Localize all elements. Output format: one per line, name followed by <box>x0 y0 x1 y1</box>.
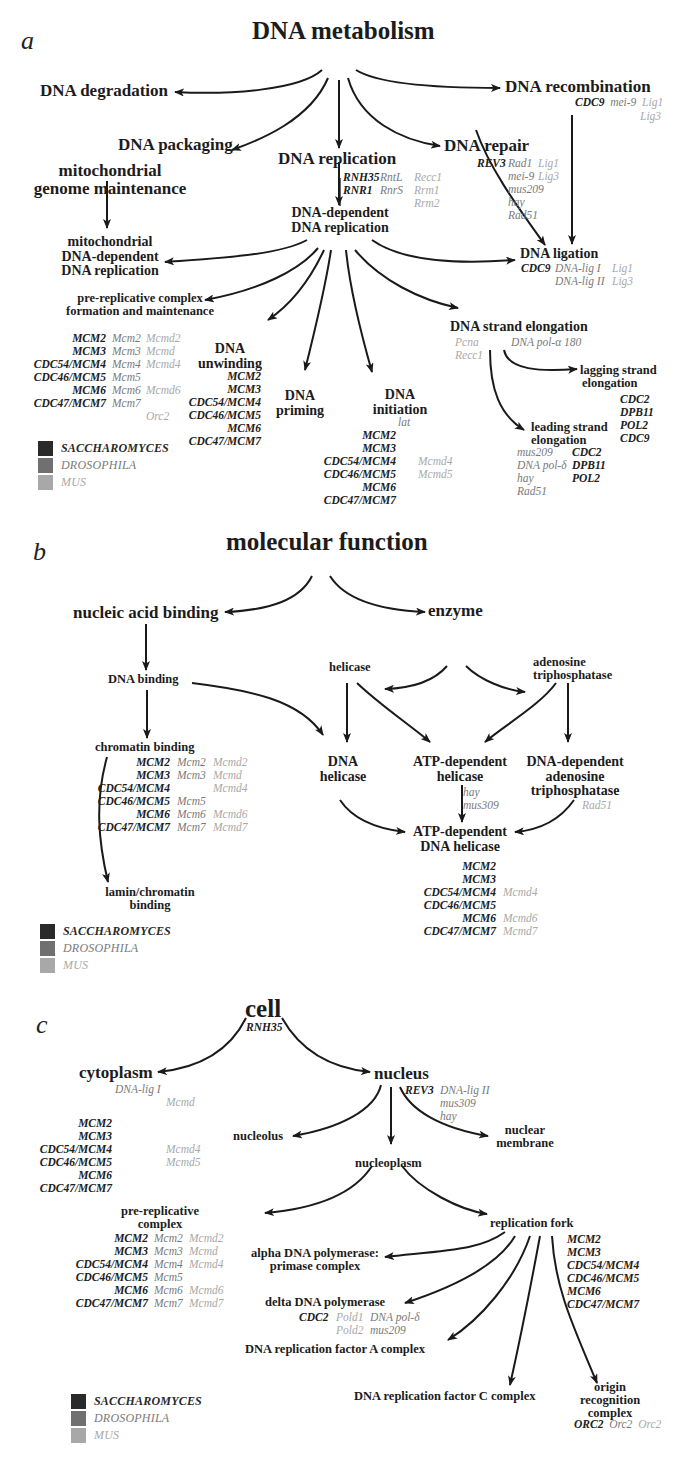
gene-cdc2: CDC2 <box>299 1311 328 1324</box>
node-nucleus: nucleus <box>374 1065 429 1083</box>
genes-ligation-mus: Lig1 Lig3 <box>612 262 633 288</box>
genes-cytoplasm-sac: MCM2 MCM3 CDC54/MCM4 CDC46/MCM5 MCM6 CDC… <box>30 1117 112 1195</box>
node-dna-dependent-atpase: DNA-dependent adenosine triphosphatase <box>520 755 630 799</box>
gene-lat: lat <box>398 416 410 429</box>
node-rfc-complex: DNA replication factor C complex <box>354 1390 535 1403</box>
node-nuclear-membrane: nuclear membrane <box>490 1124 560 1150</box>
node-chromatin-binding: chromatin binding <box>95 741 194 754</box>
genes-orc: ORC2 Orc2 Orc2 <box>574 1418 661 1431</box>
genes-prerep-dro: Mcm2 Mcm3 Mcm4 Mcm5 Mcm6 Mcm7 <box>112 332 141 410</box>
genes-strand-elong-mus: Pcna Recc1 <box>455 336 483 362</box>
swatch-saccharomyces <box>40 924 55 939</box>
panel-letter-c: c <box>36 1010 48 1040</box>
genes-fork-sac: MCM2 MCM3 CDC54/MCM4 CDC46/MCM5 MCM6 CDC… <box>567 1233 639 1311</box>
node-dna-dependent-replication: DNA-dependent DNA replication <box>280 206 400 235</box>
node-dna-replication: DNA replication <box>278 150 396 168</box>
gene-rnh35: RNH35 <box>246 1021 282 1034</box>
swatch-mus <box>71 1428 86 1443</box>
swatch-drosophila <box>40 941 55 956</box>
gene-rev3: REV3 <box>405 1084 434 1097</box>
node-molecular-function: molecular function <box>226 529 428 555</box>
node-dna-unwinding: DNA unwinding <box>190 342 270 371</box>
genes-delta-mus: Pold1 Pold2 <box>336 1311 363 1337</box>
node-dna-packaging: DNA packaging <box>118 136 233 154</box>
genes-atp-dna-helicase-mus: Mcmd4 Mcmd6 Mcmd7 <box>503 860 538 938</box>
genes-initiation-sac: MCM2 MCM3 CDC54/MCM4 CDC46/MCM5 MCM6 CDC… <box>314 429 396 507</box>
node-atp-dependent-helicase: ATP-dependent helicase <box>405 755 515 784</box>
genes-leading-dro: mus209 DNA pol-δ hay Rad51 <box>517 446 567 498</box>
panel-letter-b: b <box>33 537 46 567</box>
node-helicase: helicase <box>329 661 371 674</box>
legend-item-drosophila: DROSOPHILA <box>38 457 169 474</box>
genes-unwinding-sac: MCM2 MCM3 CDC54/MCM4 CDC46/MCM5 MCM6 CDC… <box>180 370 261 448</box>
panel-letter-a: a <box>21 26 34 56</box>
gene-mcmd: Mcmd <box>166 1096 195 1109</box>
swatch-saccharomyces <box>71 1394 86 1409</box>
node-dna-priming: DNA priming <box>270 389 330 418</box>
node-lagging-strand-elongation: lagging strand elongation <box>580 364 657 390</box>
genes-prerep-c-mus: Mcmd2 Mcmd Mcmd4 Mcmd6 Mcmd7 <box>189 1232 224 1310</box>
genes-initiation-mus: Mcmd4 Mcmd5 <box>418 455 453 481</box>
genes-atp-dna-helicase-sac: MCM2 MCM3 CDC54/MCM4 CDC46/MCM5 MCM6 CDC… <box>420 860 496 938</box>
swatch-drosophila <box>71 1411 86 1426</box>
node-mito-genome-maintenance: mitochondrial genome maintenance <box>30 162 190 198</box>
legend-item-drosophila: DROSOPHILA <box>40 940 171 957</box>
genes-replication-dro: RntL RnrS <box>380 171 403 197</box>
gene-lig3: Lig3 <box>640 110 661 123</box>
genes-chromatin-mus: Mcmd2 Mcmd Mcmd4 Mcmd6 Mcmd7 <box>213 756 248 834</box>
node-dna-initiation: DNA initiation <box>360 388 440 417</box>
legend-item-saccharomyces: SACCHAROMYCES <box>38 440 169 457</box>
swatch-mus <box>38 475 53 490</box>
legend-item-mus: MUS <box>71 1427 202 1444</box>
swatch-saccharomyces <box>38 441 53 456</box>
genes-prerep-c-sac: MCM2 MCM3 CDC54/MCM4 CDC46/MCM5 MCM6 CDC… <box>70 1232 148 1310</box>
node-dna-repair: DNA repair <box>444 137 529 155</box>
node-dna-strand-elongation: DNA strand elongation <box>450 320 588 335</box>
legend-item-mus: MUS <box>38 474 169 491</box>
node-rfa-complex: DNA replication factor A complex <box>245 1343 425 1356</box>
genes-ligation-dro: DNA-lig I DNA-lig II <box>555 262 605 288</box>
node-nucleolus: nucleolus <box>233 1130 283 1143</box>
node-delta-dna-polymerase: delta DNA polymerase <box>265 1296 385 1309</box>
node-dna-metabolism: DNA metabolism <box>252 18 435 44</box>
legend-item-saccharomyces: SACCHAROMYCES <box>71 1393 202 1410</box>
genes-lagging-sac: CDC2 DPB11 POL2 CDC9 <box>620 393 654 445</box>
legend-a: SACCHAROMYCES DROSOPHILA MUS <box>38 440 169 491</box>
node-enzyme: enzyme <box>428 602 483 620</box>
node-dna-binding: DNA binding <box>108 673 179 686</box>
node-dna-ligation: DNA ligation <box>520 247 598 262</box>
node-mito-dna-dependent-replication: mitochondrial DNA-dependent DNA replicat… <box>55 235 165 279</box>
node-dna-degradation: DNA degradation <box>40 82 168 100</box>
genes-repair-sac: REV3 <box>477 157 506 170</box>
node-replication-fork: replication fork <box>490 1217 573 1230</box>
genes-atp-helicase-dro: hay mus309 <box>463 786 499 812</box>
legend-c: SACCHAROMYCES DROSOPHILA MUS <box>71 1393 202 1444</box>
node-leading-strand-elongation: leading strand elongation <box>531 421 608 447</box>
genes-leading-sac: CDC2 DPB11 POL2 <box>572 446 606 485</box>
genes-replication-sac: RNH35 RNR1 <box>343 171 379 197</box>
gene-rad51: Rad51 <box>582 799 612 812</box>
genes-cytoplasm-mus: Mcmd4 Mcmd5 <box>166 1143 201 1169</box>
node-dna-helicase: DNA helicase <box>310 755 376 784</box>
gene-dna-pol-alpha: DNA pol-α 180 <box>511 336 581 349</box>
node-nucleoplasm: nucleoplasm <box>355 1157 422 1170</box>
node-cytoplasm: cytoplasm <box>79 1064 153 1082</box>
node-alpha-dna-polymerase-primase: alpha DNA polymerase: primase complex <box>240 1247 390 1273</box>
node-cell: cell <box>245 996 281 1022</box>
legend-item-saccharomyces: SACCHAROMYCES <box>40 923 171 940</box>
genes-prerep-mus: Mcmd2 Mcmd Mcmd4 Mcmd6 Orc2 <box>146 332 181 423</box>
legend-b: SACCHAROMYCES DROSOPHILA MUS <box>40 923 171 974</box>
node-origin-recognition-complex: origin recognition complex <box>572 1381 648 1420</box>
legend-item-mus: MUS <box>40 957 171 974</box>
genes-replication-mus: Recc1 Rrm1 Rrm2 <box>414 171 442 210</box>
genes-delta-dro: DNA pol-δ mus209 <box>370 1311 420 1337</box>
legend-item-drosophila: DROSOPHILA <box>71 1410 202 1427</box>
genes-prerep-c-dro: Mcm2 Mcm3 Mcm4 Mcm5 Mcm6 Mcm7 <box>154 1232 183 1310</box>
genes-recombination: CDC9 mei-9 Lig1 <box>575 96 663 109</box>
node-prereplicative-complex: pre-replicative complex <box>110 1205 210 1231</box>
genes-chromatin-dro: Mcm2 Mcm3 Mcm5 Mcm6 Mcm7 <box>177 756 206 834</box>
node-atp-dependent-dna-helicase: ATP-dependent DNA helicase <box>405 825 515 854</box>
genes-ligation-sac: CDC9 <box>521 262 550 275</box>
swatch-drosophila <box>38 458 53 473</box>
node-nucleic-acid-binding: nucleic acid binding <box>73 604 218 622</box>
